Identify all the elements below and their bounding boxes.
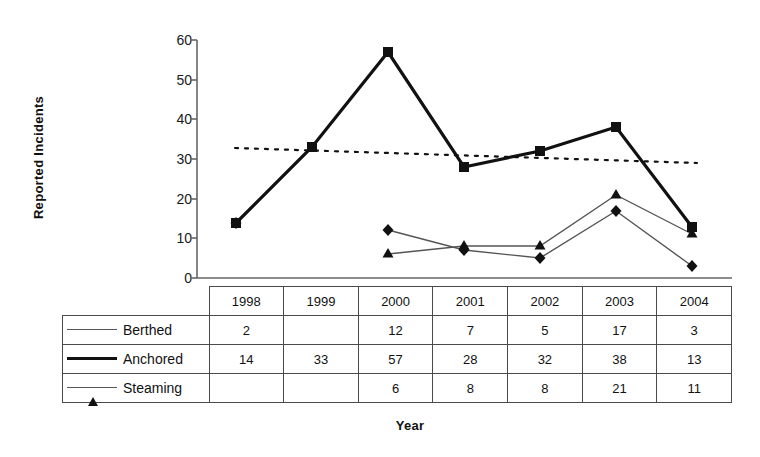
table-header-2000: 2000 <box>358 287 433 316</box>
legend-label-anchored: Anchored <box>117 351 203 367</box>
cell-steaming-2001: 8 <box>433 374 508 403</box>
cell-berthed-2001: 7 <box>433 316 508 345</box>
legend-sample-anchored <box>67 349 117 369</box>
table-header-1999: 1999 <box>284 287 359 316</box>
table-header-row: 1998 1999 2000 2001 2002 2003 2004 <box>63 287 732 316</box>
table-header-2002: 2002 <box>508 287 583 316</box>
cell-steaming-2002: 8 <box>508 374 583 403</box>
cell-anchored-2001: 28 <box>433 345 508 374</box>
x-axis-title: Year <box>350 418 470 433</box>
cell-berthed-2004: 3 <box>657 316 732 345</box>
table-header-2003: 2003 <box>582 287 657 316</box>
legend-sample-steaming <box>67 378 117 398</box>
table-row: Anchored 14 33 57 28 32 38 13 <box>63 345 732 374</box>
cell-steaming-2003: 21 <box>582 374 657 403</box>
cell-anchored-2003: 38 <box>582 345 657 374</box>
legend-row-anchored: Anchored <box>63 345 210 374</box>
y-axis-ticks <box>190 40 197 278</box>
series-markers-steaming <box>383 189 698 258</box>
table-header-2001: 2001 <box>433 287 508 316</box>
cell-anchored-1999: 33 <box>284 345 359 374</box>
cell-anchored-2004: 13 <box>657 345 732 374</box>
series-markers-berthed <box>231 205 698 272</box>
table-row: Berthed 2 12 7 5 17 3 <box>63 316 732 345</box>
legend-row-berthed: Berthed <box>63 316 210 345</box>
cell-steaming-2004: 11 <box>657 374 732 403</box>
data-legend-table: 1998 1999 2000 2001 2002 2003 2004 Berth… <box>62 286 732 403</box>
legend-header-blank <box>63 287 210 316</box>
chart-container: Reported Incidents 60 50 40 30 20 10 0 <box>0 0 760 457</box>
cell-anchored-1998: 14 <box>209 345 284 374</box>
triangle-marker-icon <box>88 382 98 406</box>
legend-sample-berthed <box>67 320 117 340</box>
cell-berthed-2000: 12 <box>358 316 433 345</box>
cell-berthed-2002: 5 <box>508 316 583 345</box>
cell-berthed-1998: 2 <box>209 316 284 345</box>
table-header-1998: 1998 <box>209 287 284 316</box>
cell-anchored-2000: 57 <box>358 345 433 374</box>
cell-berthed-2003: 17 <box>582 316 657 345</box>
cell-anchored-2002: 32 <box>508 345 583 374</box>
cell-steaming-1998 <box>209 374 284 403</box>
legend-label-berthed: Berthed <box>117 322 203 338</box>
table-row: Steaming 6 8 8 21 11 <box>63 374 732 403</box>
cell-steaming-2000: 6 <box>358 374 433 403</box>
legend-row-steaming: Steaming <box>63 374 210 403</box>
cell-berthed-1999 <box>284 316 359 345</box>
series-line-anchored <box>236 52 692 227</box>
legend-label-steaming: Steaming <box>117 380 203 396</box>
table-header-2004: 2004 <box>657 287 732 316</box>
cell-steaming-1999 <box>284 374 359 403</box>
